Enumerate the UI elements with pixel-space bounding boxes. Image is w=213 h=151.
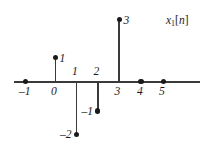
tick-label-n5: 5 (159, 86, 165, 98)
tick-label-n0: 0 (51, 86, 57, 98)
n-axis-line (14, 81, 200, 83)
tick-label-n-minus1: –1 (19, 86, 31, 98)
marker-n1 (74, 132, 79, 137)
data-label-n2: –1 (82, 106, 94, 118)
stem-plot-figure: 1 –2 –1 3 –1 0 1 2 3 4 5 x1[n] (0, 0, 213, 151)
marker-n0 (53, 55, 58, 60)
marker-n4 (138, 79, 143, 84)
signal-name-label: x1[n] (166, 15, 189, 28)
tick-label-n2: 2 (94, 66, 100, 78)
marker-n5 (161, 79, 166, 84)
stem-n0 (55, 58, 57, 82)
data-label-n1: –2 (60, 129, 72, 141)
marker-n-minus1 (23, 79, 28, 84)
stem-n1 (76, 82, 78, 134)
tick-label-n3: 3 (115, 86, 121, 98)
stem-n3 (118, 20, 120, 82)
data-label-n0: 1 (60, 53, 66, 65)
signal-name-bracket-close: ] (185, 14, 189, 26)
stem-n2 (97, 82, 99, 111)
marker-n3 (117, 17, 122, 22)
tick-label-n1: 1 (72, 66, 78, 78)
data-label-n3: 3 (124, 15, 130, 27)
tick-label-n4: 4 (137, 86, 143, 98)
marker-n2 (95, 108, 100, 113)
